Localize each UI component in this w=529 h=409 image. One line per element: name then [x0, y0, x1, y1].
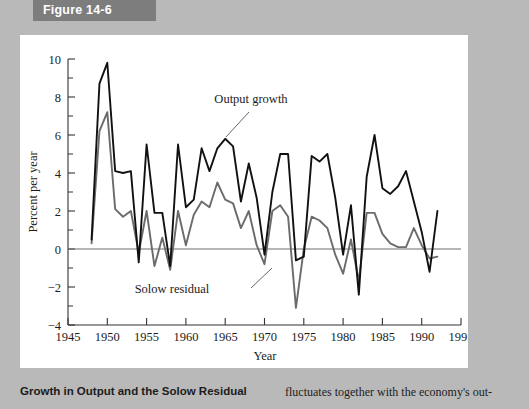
solow-residual-line-chart: −4−20246810 1945195019551960196519701975… — [20, 35, 468, 368]
x-tick-label: 1975 — [291, 330, 316, 344]
solow-residual-label: Solow residual — [135, 282, 210, 296]
x-tick-label: 1990 — [409, 330, 434, 344]
x-tick-label: 1985 — [370, 330, 395, 344]
x-tick-label: 1950 — [95, 330, 120, 344]
x-tick-label: 1980 — [331, 330, 356, 344]
y-tick-label: 10 — [49, 53, 62, 67]
x-tick-label: 1970 — [252, 330, 277, 344]
output-growth-label-leader-line — [226, 112, 249, 137]
y-tick-label: −2 — [48, 281, 61, 295]
output-growth-label: Output growth — [214, 92, 288, 106]
figure-number-banner: Figure 14-6 — [33, 0, 156, 21]
x-tick-label: 1965 — [213, 330, 238, 344]
x-axis-ticks: 1945195019551960196519701975198019851990… — [56, 318, 469, 344]
x-tick-label: 1960 — [173, 330, 198, 344]
caption-body-text: fluctuates together with the economy's o… — [285, 385, 492, 400]
chart-annotations: Output growthSolow residual — [135, 92, 289, 296]
y-axis-ticks: −4−20246810 — [48, 53, 75, 333]
x-tick-label: 1955 — [134, 330, 159, 344]
x-axis-title: Year — [253, 349, 277, 363]
y-tick-label: 8 — [55, 91, 61, 105]
caption-title: Growth in Output and the Solow Residual — [20, 385, 247, 397]
x-tick-label: 1945 — [56, 330, 81, 344]
y-tick-label: 6 — [55, 129, 61, 143]
y-tick-label: 2 — [55, 205, 61, 219]
x-tick-label: 1995 — [449, 330, 469, 344]
chart-card: −4−20246810 1945195019551960196519701975… — [20, 35, 468, 368]
y-axis-title: Percent per year — [26, 151, 40, 233]
y-tick-label: 4 — [55, 167, 62, 181]
caption-band: Growth in Output and the Solow Residual … — [0, 376, 529, 409]
series-line-solow-residual — [92, 112, 438, 308]
y-tick-label: 0 — [55, 243, 61, 257]
solow-residual-label-leader-line — [251, 268, 272, 288]
